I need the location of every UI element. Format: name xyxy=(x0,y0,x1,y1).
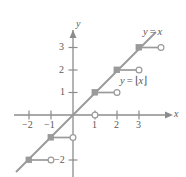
floor-bracket-close-icon: ⌋ xyxy=(143,75,147,86)
closed-endpoint--2--2 xyxy=(26,157,32,163)
open-endpoint-3-2 xyxy=(136,67,142,73)
open-endpoint-1-0 xyxy=(92,112,98,118)
annotation-floor-operator: = xyxy=(127,75,133,86)
annotation-y-equals-x-operator: = xyxy=(150,26,156,37)
closed-endpoint-2-2 xyxy=(114,67,120,73)
closed-endpoint-1-1 xyxy=(92,90,98,96)
y-axis-label: y xyxy=(76,18,80,29)
annotation-y-equals-x-rhs: x xyxy=(158,26,163,37)
open-endpoint-markers xyxy=(48,45,164,163)
closed-endpoint-3-3 xyxy=(136,45,142,51)
x-tick-label-2: 2 xyxy=(114,119,119,130)
y-tick-label-1: 1 xyxy=(60,86,65,97)
x-axis-label: x xyxy=(174,108,178,119)
y-tick-label-3: 3 xyxy=(59,41,64,52)
open-endpoint-4-3 xyxy=(158,45,164,51)
x-tick-label--2: −2 xyxy=(22,119,33,130)
x-axis-arrowhead xyxy=(165,112,173,119)
open-endpoint-0--1 xyxy=(70,135,76,141)
x-tick-label--1: −1 xyxy=(44,119,55,130)
line-y-equals-x xyxy=(16,32,156,172)
floor-step-segments xyxy=(29,48,161,161)
open-endpoint-2-1 xyxy=(114,90,120,96)
annotation-y-equals-x: y=x xyxy=(143,26,162,37)
x-tick-label-3: 3 xyxy=(136,119,141,130)
annotation-floor-lhs: y xyxy=(120,75,125,86)
y-tick-label--2: −2 xyxy=(54,154,65,165)
y-tick-label-2: 2 xyxy=(59,64,64,75)
annotation-y-equals-floor-x: y=⌊x⌋ xyxy=(120,74,147,86)
y-axis-arrowhead xyxy=(70,30,77,38)
closed-endpoint--1--1 xyxy=(48,135,54,141)
floor-function-graph-figure: x y −2 −1 1 2 3 1 2 3 −2 y=x y=⌊x⌋ xyxy=(0,0,186,177)
annotation-y-equals-x-lhs: y xyxy=(143,26,148,37)
x-tick-label-1: 1 xyxy=(92,119,97,130)
axes-group xyxy=(14,30,165,177)
